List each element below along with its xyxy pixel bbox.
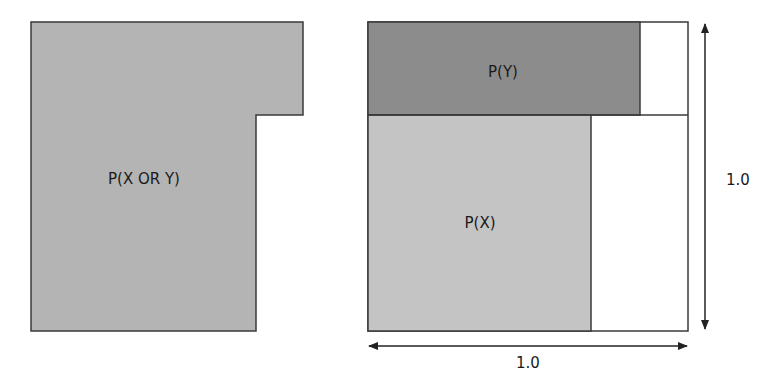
- union-label: P(X OR Y): [108, 170, 180, 188]
- width-dimension: 1.0: [369, 346, 687, 372]
- height-label: 1.0: [726, 171, 750, 189]
- probability-area-diagram: P(X OR Y) P(Y) P(X) 1.0 1.0: [0, 0, 771, 387]
- width-label: 1.0: [516, 354, 540, 372]
- region-y-label: P(Y): [488, 63, 518, 81]
- height-dimension: 1.0: [705, 24, 750, 329]
- sample-space: P(Y) P(X): [368, 22, 688, 331]
- region-x-label: P(X): [464, 214, 495, 232]
- union-region: P(X OR Y): [31, 22, 303, 331]
